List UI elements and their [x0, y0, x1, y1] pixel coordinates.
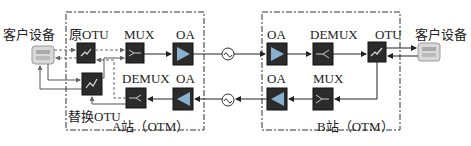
client-device-b-label: 客户设备	[415, 28, 467, 41]
original-otu-label: 原OTU	[69, 28, 109, 41]
client-device-b-icon	[418, 43, 440, 61]
demux-b-icon	[313, 43, 333, 65]
mux-b-icon	[313, 88, 333, 110]
otu-b-label: OTU	[375, 28, 402, 41]
mux-a-icon	[126, 43, 144, 63]
station-b-label: B站（OTM）	[317, 120, 394, 133]
mux-a-label: MUX	[124, 28, 154, 41]
replacement-otu-icon	[82, 73, 102, 95]
client-device-a-label: 客户设备	[3, 28, 55, 41]
diagram-canvas	[0, 0, 471, 146]
oa-b-tx-label: OA	[267, 72, 286, 85]
demux-a-icon	[126, 88, 146, 108]
oa-a-tx-label: OA	[176, 28, 195, 41]
oa-a-rx-icon	[173, 88, 193, 110]
oa-a-rx-label: OA	[176, 72, 195, 85]
fiber-top-icon	[222, 48, 234, 60]
fiber-bottom-icon	[222, 94, 234, 106]
client-device-a-icon	[32, 46, 54, 64]
oa-b-rx-icon	[267, 43, 287, 65]
original-otu-icon	[77, 43, 95, 63]
demux-b-label: DEMUX	[310, 28, 358, 41]
oa-b-rx-label: OA	[267, 28, 286, 41]
oa-b-tx-icon	[267, 88, 287, 110]
mux-b-label: MUX	[313, 72, 343, 85]
oa-a-tx-icon	[173, 43, 193, 65]
otu-b-icon	[368, 42, 386, 62]
station-a-label: A站（OTM）	[112, 120, 189, 133]
demux-a-label: DEMUX	[122, 72, 170, 85]
